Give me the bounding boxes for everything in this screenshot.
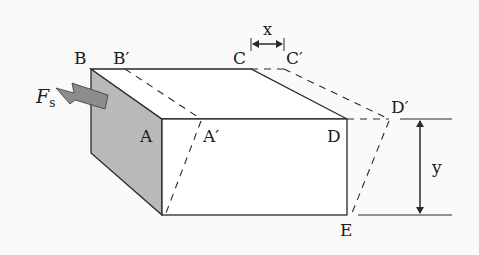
label-b: B — [74, 48, 87, 68]
label-force-main: F — [35, 85, 50, 107]
label-a: A — [139, 126, 153, 146]
x-dimension — [251, 38, 284, 51]
label-c: C — [233, 48, 246, 68]
label-force: Fs — [35, 85, 55, 110]
front-face — [162, 119, 347, 215]
label-c-prime: C′ — [286, 48, 303, 68]
label-d: D — [327, 126, 341, 146]
label-force-subscript: s — [49, 96, 55, 110]
label-y: y — [431, 157, 442, 177]
label-a-prime: A′ — [202, 126, 219, 146]
label-e: E — [340, 220, 352, 240]
label-x: x — [263, 20, 272, 39]
shear-block-diagram: B B′ C C′ x A A′ D D′ E y Fs — [0, 0, 479, 255]
diagram-canvas: B B′ C C′ x A A′ D D′ E y Fs — [0, 0, 479, 255]
label-b-prime: B′ — [113, 48, 129, 68]
dashed-d-prime-down — [352, 121, 389, 213]
label-d-prime: D′ — [391, 97, 409, 117]
